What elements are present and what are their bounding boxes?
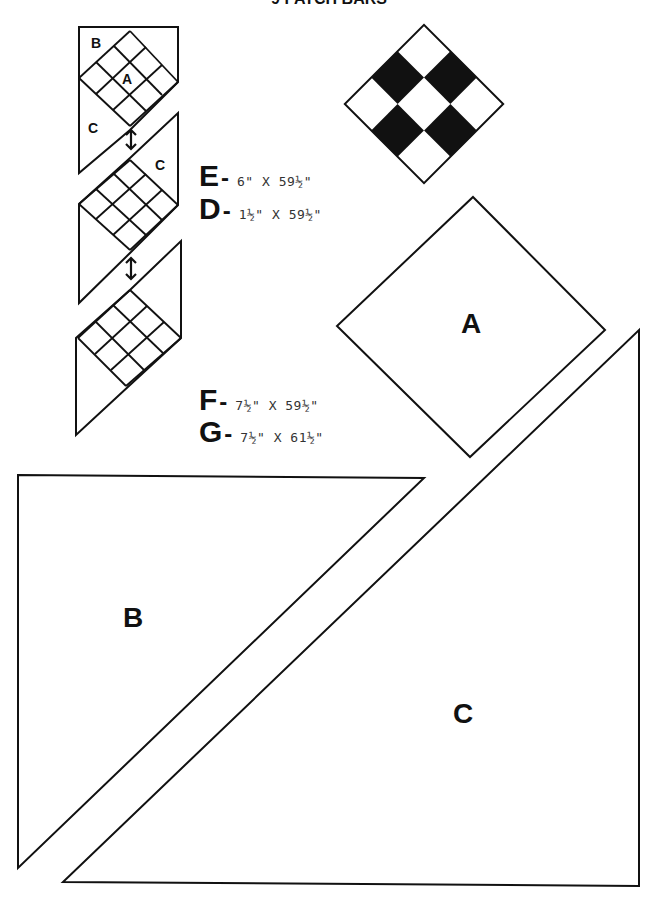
assembly-unit-3 — [76, 241, 181, 435]
cut-dimensions: 1½" X 59½" — [239, 207, 322, 222]
cut-letter: E — [199, 163, 219, 189]
cut-item-e: E - 6" X 59½" — [199, 163, 312, 192]
assembly-label-c: C — [155, 157, 165, 173]
cut-item-f: F - 7½" X 59½" — [199, 387, 319, 416]
pattern-diagram: B A C C A B C — [0, 0, 658, 905]
cut-dimensions: 7½" X 59½" — [235, 398, 318, 413]
cut-letter: F — [199, 387, 217, 413]
template-c-label: C — [453, 698, 473, 729]
assembly-unit-2 — [79, 113, 178, 303]
double-arrow-icon — [126, 130, 136, 149]
cut-letter: G — [199, 419, 222, 445]
assembly-label-b: B — [91, 35, 101, 51]
assembly-label-c: C — [88, 120, 98, 136]
template-a-label: A — [461, 308, 481, 339]
cut-dimensions: 7½" X 61½" — [240, 430, 323, 445]
assembly-label-a: A — [122, 71, 132, 87]
template-b-label: B — [123, 602, 143, 633]
cut-item-d: D - 1½" X 59½" — [199, 196, 322, 225]
cut-item-g: G - 7½" X 61½" — [199, 419, 324, 448]
nine-patch-block — [345, 25, 503, 183]
double-arrow-icon — [126, 258, 136, 279]
template-c-triangle — [63, 330, 639, 886]
template-b-triangle — [18, 475, 424, 868]
cut-letter: D — [199, 196, 221, 222]
cut-dimensions: 6" X 59½" — [237, 174, 312, 189]
